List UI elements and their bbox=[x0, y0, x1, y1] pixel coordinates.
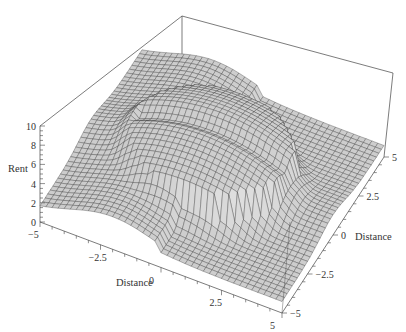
y-tick-label: 0 bbox=[341, 230, 346, 241]
surface-mesh bbox=[40, 50, 384, 302]
surface-plot: −5−2.502.55−5−2.502.550246810 Rent Dista… bbox=[0, 0, 406, 332]
x-tick-label: 5 bbox=[270, 320, 275, 331]
x-tick-label: −2.5 bbox=[89, 252, 107, 263]
z-axis-title: Rent bbox=[8, 163, 28, 174]
y-axis-title: Distance bbox=[355, 231, 392, 242]
y-tick-label: 5 bbox=[392, 152, 397, 163]
z-tick-label: 4 bbox=[31, 179, 36, 190]
y-tick-label: −5 bbox=[290, 308, 301, 319]
z-tick-label: 6 bbox=[31, 159, 36, 170]
x-axis-title: Distance bbox=[116, 277, 153, 288]
z-tick-label: 10 bbox=[26, 121, 36, 132]
x-tick-label: −5 bbox=[28, 229, 39, 240]
z-tick-label: 8 bbox=[31, 140, 36, 151]
y-tick-label: −2.5 bbox=[316, 269, 334, 280]
z-tick-label: 2 bbox=[31, 198, 36, 209]
z-tick-label: 0 bbox=[31, 217, 36, 228]
x-tick-label: 2.5 bbox=[210, 297, 223, 308]
y-tick-label: 2.5 bbox=[367, 191, 380, 202]
